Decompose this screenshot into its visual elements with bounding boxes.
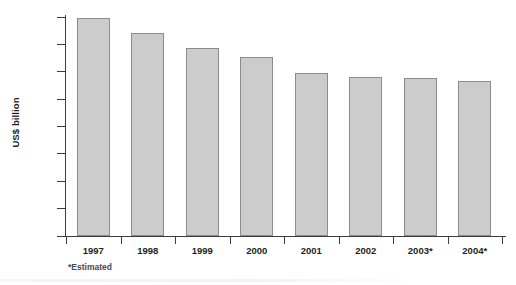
y-axis-tick-mark (57, 126, 65, 127)
bar (240, 57, 273, 236)
x-axis-tick-label: 1999 (172, 245, 232, 256)
x-axis-tick-mark (175, 237, 176, 244)
bar (131, 33, 164, 236)
y-axis-tick-mark (57, 17, 65, 18)
y-axis-tick-mark (57, 208, 65, 209)
y-axis-tick-mark (57, 181, 65, 182)
x-axis-tick-label: 2003* (390, 245, 450, 256)
plot-area (66, 17, 502, 236)
bar (77, 18, 110, 236)
bar (295, 73, 328, 236)
x-axis-tick-mark (121, 237, 122, 244)
x-axis-line (57, 236, 506, 237)
y-axis-tick-mark (57, 99, 65, 100)
y-axis-tick-mark (57, 71, 65, 72)
x-axis-tick-mark (66, 237, 67, 244)
y-axis-tick-mark (57, 44, 65, 45)
bar (186, 48, 219, 236)
x-axis-tick-label: 1997 (63, 245, 123, 256)
x-axis-tick-mark (393, 237, 394, 244)
y-axis-title: US$ billion (4, 0, 26, 245)
x-axis-tick-mark (230, 237, 231, 244)
x-axis-tick-mark (284, 237, 285, 244)
x-axis-tick-mark (502, 237, 503, 244)
x-axis-tick-label: 2000 (227, 245, 287, 256)
x-axis-tick-label: 2001 (281, 245, 341, 256)
bar (349, 77, 382, 236)
footnote: *Estimated (68, 262, 112, 272)
y-axis-tick-mark (57, 236, 65, 237)
x-axis-tick-mark (448, 237, 449, 244)
x-axis-tick-label: 2004* (445, 245, 505, 256)
bar-chart: US$ billion 020406080100120140160 199719… (0, 0, 516, 285)
bar (458, 81, 491, 236)
x-axis-tick-mark (339, 237, 340, 244)
x-axis-tick-label: 1998 (118, 245, 178, 256)
scan-artifact (0, 279, 420, 282)
y-axis-tick-mark (57, 153, 65, 154)
y-axis-title-label: US$ billion (10, 97, 21, 147)
x-axis-tick-label: 2002 (336, 245, 396, 256)
bar (404, 78, 437, 236)
